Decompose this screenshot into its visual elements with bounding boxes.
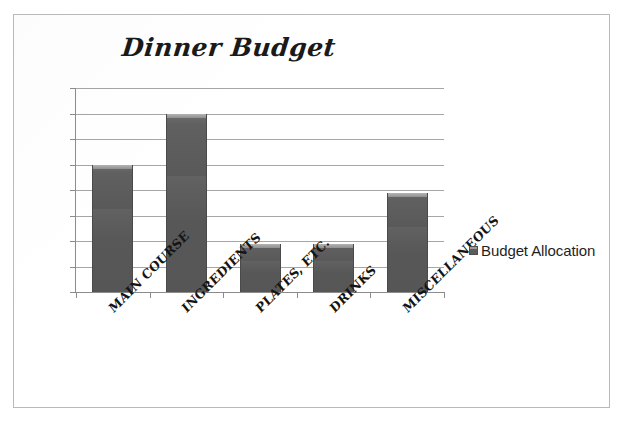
y-axis-tick: [70, 267, 76, 268]
y-axis-tick: [70, 190, 76, 191]
y-axis-tick: [70, 216, 76, 217]
legend-color-swatch: [469, 246, 478, 255]
bar-main-course: [92, 165, 133, 293]
gridline: [76, 139, 444, 140]
x-axis-tick: [297, 292, 298, 298]
x-axis-tick: [150, 292, 151, 298]
x-axis-tick: [223, 292, 224, 298]
y-axis-tick: [70, 139, 76, 140]
x-axis-tick: [444, 292, 445, 298]
chart-page-frame: Dinner Budget 0510152025303540 MAIN COUR…: [13, 14, 610, 408]
gridline: [76, 114, 444, 115]
bar-ingredients: [166, 114, 207, 293]
x-axis-tick: [370, 292, 371, 298]
y-axis-tick: [70, 88, 76, 89]
x-axis-tick: [76, 292, 77, 298]
chart-legend: Budget Allocation: [469, 242, 595, 259]
y-axis-tick: [70, 165, 76, 166]
y-axis-tick: [70, 114, 76, 115]
gridline: [76, 88, 444, 89]
bar-miscellaneous: [387, 193, 428, 292]
y-axis-tick: [70, 241, 76, 242]
chart-title: Dinner Budget: [12, 33, 445, 62]
plot-area: 0510152025303540 MAIN COURSEINGREDIENTSP…: [76, 88, 444, 292]
legend-item-label: Budget Allocation: [481, 242, 595, 259]
